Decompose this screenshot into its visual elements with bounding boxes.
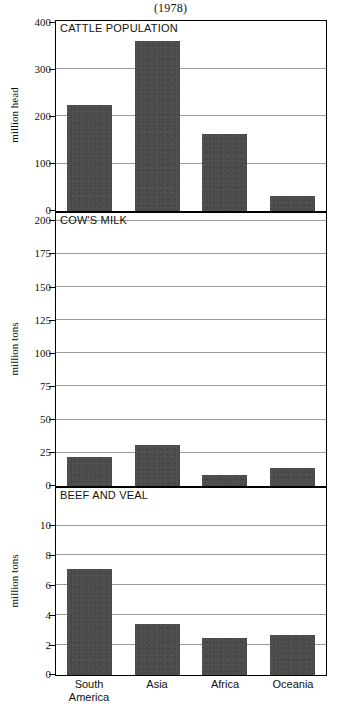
x-axis-category-label-line: Oceania [259,678,327,691]
x-axis-category-label-line: America [55,691,123,704]
x-axis-category-label: Africa [191,678,259,691]
gridline [56,419,326,420]
y-axis-tick-label: 300 [35,63,52,75]
chart-panel-cattle-population: CATTLE POPULATION [55,20,327,212]
gridline [56,385,326,386]
y-axis-tick-label: 175 [35,247,52,259]
x-axis-category-label: SouthAmerica [55,678,123,704]
plot-area-cattle-population [56,21,326,211]
bar [202,638,247,675]
y-axis-title-beef-and-veal: million tons [8,521,20,641]
chart-panel-cows-milk: COW'S MILK [55,212,327,487]
chart-panel-beef-and-veal: BEEF AND VEAL [55,487,327,676]
gridline [56,452,326,453]
gridline [56,319,326,320]
y-axis-tick-label: 8 [46,549,52,561]
x-axis-category-label: Asia [123,678,191,691]
x-axis-category-label-line: Africa [191,678,259,691]
bar [135,445,180,486]
x-axis-category-label: Oceania [259,678,327,691]
plot-area-cows-milk [56,213,326,486]
bar [270,635,315,675]
bar [270,196,315,211]
bar [135,41,180,211]
y-axis-tick-label: 200 [35,214,52,226]
y-axis-title-cows-milk: million tons [8,289,20,409]
gridline [56,554,326,555]
bar [202,475,247,486]
y-axis-tick-label: 6 [46,579,52,591]
gridline [56,253,326,254]
x-axis-category-label-line: Asia [123,678,191,691]
gridline [56,286,326,287]
plot-area-beef-and-veal [56,488,326,675]
y-axis-tick-label: 100 [35,157,52,169]
y-axis-tick-label: 0 [46,479,52,491]
figure-container: (1978) CATTLE POPULATION million head CO… [0,0,341,707]
y-axis-tick-label: 200 [35,110,52,122]
y-axis-tick-label: 50 [40,413,51,425]
y-axis-tick-label: 10 [40,519,51,531]
y-axis-tick-label: 25 [40,446,51,458]
y-axis-tick-label: 0 [46,668,52,680]
gridline [56,68,326,69]
bar [270,468,315,486]
figure-title: (1978) [0,1,341,16]
panel-title-cattle-population: CATTLE POPULATION [60,22,178,34]
bar [67,569,112,675]
bar [135,624,180,676]
y-axis-tick-label: 75 [40,380,51,392]
gridline [56,352,326,353]
bar [67,457,112,486]
gridline [56,525,326,526]
y-axis-title-cattle-population: million head [8,55,20,175]
y-axis-tick-label: 400 [35,16,52,28]
y-axis-tick-label: 100 [35,347,52,359]
y-axis-tick-label: 125 [35,314,52,326]
panel-title-beef-and-veal: BEEF AND VEAL [60,489,148,501]
y-axis-tick-label: 4 [46,609,52,621]
x-axis-category-labels: SouthAmericaAsiaAfricaOceania [55,678,327,707]
panel-title-cows-milk: COW'S MILK [60,214,127,226]
bar [202,134,247,211]
y-axis-tick-label: 150 [35,281,52,293]
x-axis-category-label-line: South [55,678,123,691]
y-axis-tick-label: 2 [46,639,52,651]
bar [67,105,112,211]
